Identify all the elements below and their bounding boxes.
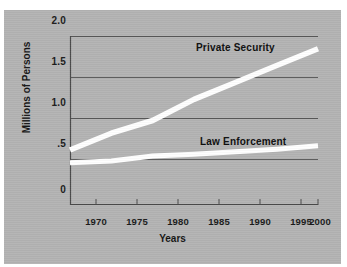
y-tick-label: 1.0 xyxy=(51,97,66,108)
x-tick-label: 1980 xyxy=(167,216,189,227)
series-line-law-enforcement xyxy=(70,146,318,163)
x-tick-label: 1985 xyxy=(208,216,230,227)
x-tick-label: 1970 xyxy=(85,216,107,227)
x-tick-label: 1990 xyxy=(249,216,271,227)
x-axis-tick-labels: 1970 1975 1980 1985 1990 1995 2000 xyxy=(4,216,341,232)
y-tick-label: 2.0 xyxy=(51,15,66,26)
x-tick-label: 2000 xyxy=(309,216,331,227)
plot-svg xyxy=(70,36,318,205)
x-axis-title: Years xyxy=(4,233,341,244)
chart-card: 2.0 1.5 1.0 .5 0 Millions of Persons xyxy=(4,10,341,264)
y-tick-label: .5 xyxy=(57,138,66,149)
plot-area: Private Security Law Enforcement xyxy=(70,36,318,205)
y-tick-label: 1.5 xyxy=(51,56,66,67)
y-axis-title: Millions of Persons xyxy=(21,28,32,148)
series-label-private-security: Private Security xyxy=(196,42,275,53)
series-line-private-security xyxy=(70,49,318,150)
x-tick-label: 1975 xyxy=(126,216,148,227)
chart-figure: 2.0 1.5 1.0 .5 0 Millions of Persons xyxy=(0,0,347,267)
series-label-law-enforcement: Law Enforcement xyxy=(200,136,286,147)
y-tick-label: 0 xyxy=(60,184,66,195)
y-axis-tick-labels: 2.0 1.5 1.0 .5 0 xyxy=(32,20,66,220)
